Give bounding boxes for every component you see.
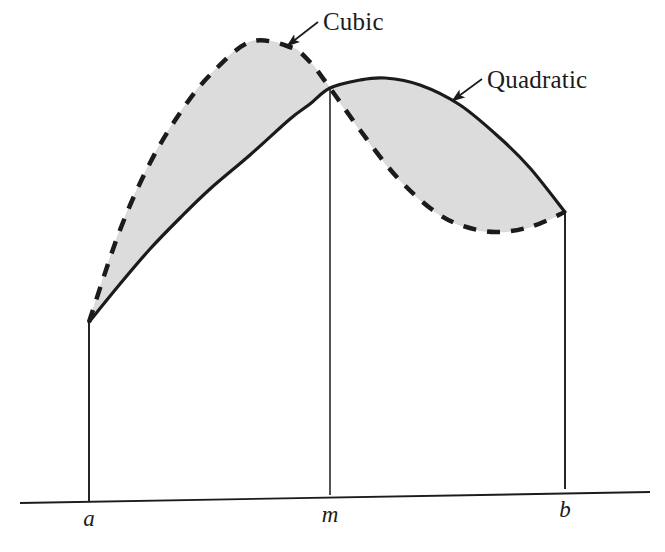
quadratic-annotation-arrow bbox=[452, 79, 482, 101]
cubic-series-label: Cubic bbox=[323, 8, 384, 35]
axis-tick-label-m: m bbox=[322, 502, 339, 527]
axis-tick-label-b: b bbox=[559, 497, 571, 522]
quadratic-series-label: Quadratic bbox=[487, 66, 587, 93]
cubic-annotation-arrow bbox=[287, 22, 318, 46]
figure-container: Cubic Quadratic a m b bbox=[0, 0, 665, 552]
shaded-region-right-lobe bbox=[330, 78, 565, 232]
axis-tick-label-a: a bbox=[83, 506, 95, 531]
cubic-quadratic-diagram: Cubic Quadratic a m b bbox=[0, 0, 665, 552]
